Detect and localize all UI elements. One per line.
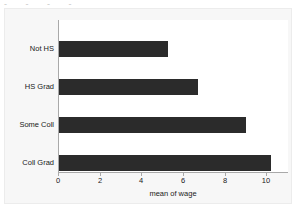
x-axis-tick-label: 10	[254, 176, 278, 185]
bar	[59, 41, 168, 57]
y-axis-tick-label: Not HS	[5, 41, 54, 57]
bar-fill	[59, 41, 168, 57]
bar-series	[59, 20, 288, 172]
x-axis-tick-label: 4	[129, 176, 153, 185]
bar	[59, 79, 198, 95]
bar-chart-figure: Not HSHS GradSome CollColl Grad 0246810 …	[4, 8, 292, 204]
x-axis-ticks: 0246810	[58, 173, 288, 189]
bar-fill	[59, 79, 198, 95]
bar-fill	[59, 117, 246, 133]
y-axis-tick-label: HS Grad	[5, 79, 54, 95]
clipped-top-text: - - - -	[0, 0, 296, 6]
bar	[59, 155, 271, 171]
y-axis-tick-labels: Not HSHS GradSome CollColl Grad	[5, 20, 54, 172]
x-axis-tick-label: 2	[88, 176, 112, 185]
x-axis-tick-label: 8	[213, 176, 237, 185]
x-axis-tick-label: 0	[46, 176, 70, 185]
bar-fill	[59, 155, 271, 171]
x-axis-tick-label: 6	[171, 176, 195, 185]
x-axis-title: mean of wage	[58, 189, 288, 198]
chart-screenshot: - - - - Not HSHS GradSome CollColl Grad …	[0, 0, 296, 210]
y-axis-tick-label: Coll Grad	[5, 155, 54, 171]
bar	[59, 117, 246, 133]
y-axis-tick-label: Some Coll	[5, 117, 54, 133]
